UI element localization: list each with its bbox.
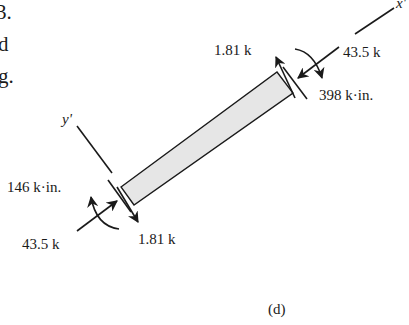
partial-text-line-2: d bbox=[0, 32, 9, 56]
left-moment-label: 146 k·in. bbox=[7, 179, 61, 195]
x-axis-label: x' bbox=[395, 0, 407, 11]
left-axial-label: 43.5 k bbox=[22, 236, 60, 252]
y-axis-line bbox=[77, 126, 112, 173]
y-axis-label: y' bbox=[60, 111, 73, 127]
free-body-diagram: 3. d g. x' y' 1.81 k 43.5 k 398 k·in. 1.… bbox=[0, 0, 409, 325]
right-shear-label: 1.81 k bbox=[214, 42, 252, 58]
partial-text: 3. d g. bbox=[0, 0, 14, 88]
partial-text-line-1: 3. bbox=[0, 0, 12, 24]
partial-text-line-3: g. bbox=[0, 64, 14, 88]
right-axial-label: 43.5 k bbox=[343, 44, 381, 60]
figure-caption: (d) bbox=[268, 301, 286, 318]
x-axis-line bbox=[355, 8, 394, 34]
left-shear-label: 1.81 k bbox=[138, 231, 176, 247]
right-moment-label: 398 k·in. bbox=[319, 87, 373, 103]
beam-member bbox=[121, 72, 293, 205]
